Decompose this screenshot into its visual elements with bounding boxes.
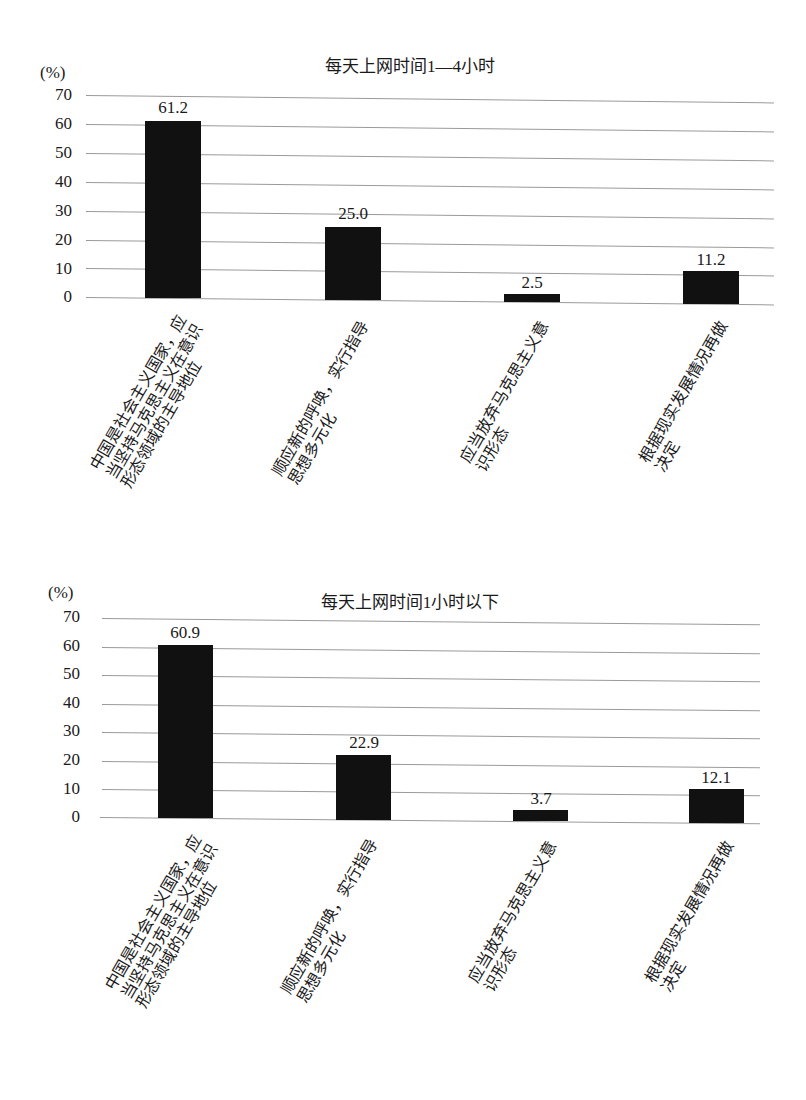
- y-tick: 40: [50, 693, 80, 713]
- value-label: 60.9: [155, 623, 215, 643]
- value-label: 3.7: [511, 789, 571, 809]
- value-label: 12.1: [686, 768, 746, 788]
- y-tick: 60: [50, 636, 80, 656]
- x-category-label: 根据现实发展情况再做 决定: [642, 838, 753, 995]
- y-tick: 0: [50, 807, 80, 827]
- y-tick: 30: [50, 721, 80, 741]
- bar: [336, 755, 391, 820]
- bar: [158, 645, 213, 818]
- x-category-label: 顺应新的呼唤，实行指导 思想多元化: [278, 836, 397, 1006]
- x-category-label: 应当放弃马克思主义意 识形态: [465, 838, 576, 995]
- value-label: 22.9: [334, 733, 394, 753]
- y-tick: 50: [50, 664, 80, 684]
- y-axis-unit: (%): [48, 583, 73, 603]
- chart-title: 每天上网时间1小时以下: [321, 588, 500, 613]
- bar: [689, 789, 744, 823]
- x-axis-baseline: [100, 817, 760, 824]
- chart-2: 每天上网时间1小时以下 (%) 70 60 50 40 30 20 10 0 6…: [0, 0, 806, 1100]
- x-category-label: 中国是社会主义国家，应 当坚持马克思主义在意识 形态领域的主导地位: [102, 832, 237, 1011]
- y-tick: 20: [50, 750, 80, 770]
- y-tick: 70: [50, 607, 80, 627]
- y-tick: 10: [50, 779, 80, 799]
- bar: [513, 810, 568, 821]
